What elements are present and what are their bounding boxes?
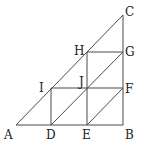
label-I: I: [39, 81, 44, 95]
segment-EF: [87, 88, 123, 125]
label-G: G: [125, 45, 135, 59]
segments: [16, 15, 123, 125]
segment-AC: [16, 15, 123, 125]
label-C: C: [125, 5, 134, 19]
label-J: J: [77, 75, 84, 89]
geometry-diagram: A D E B C G F H I J: [0, 0, 143, 145]
label-H: H: [74, 44, 84, 58]
label-D: D: [46, 128, 56, 142]
label-B: B: [125, 128, 134, 142]
point-labels: A D E B C G F H I J: [3, 5, 135, 142]
label-F: F: [125, 82, 133, 96]
label-A: A: [3, 128, 13, 142]
label-E: E: [82, 128, 91, 142]
